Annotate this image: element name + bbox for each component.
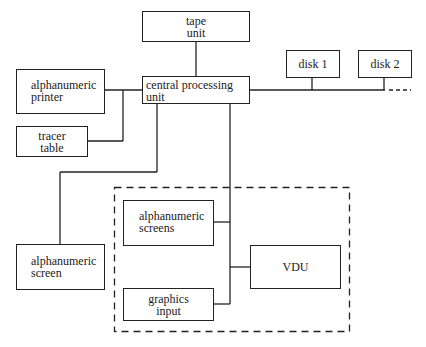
disk-1-box: disk 1 [286, 50, 340, 78]
graphics-input-label: graphics input [148, 293, 189, 317]
alphanumeric-screens-box: alphanumeric screens [123, 200, 214, 246]
cpu-label: central processing unit [146, 79, 233, 103]
tracer-table-label: tracer table [38, 130, 65, 154]
alphanumeric-printer-label: alphanumeric printer [31, 79, 96, 103]
cpu-box: central processing unit [142, 76, 250, 104]
tape-unit-label: tape unit [186, 15, 206, 39]
tracer-table-box: tracer table [16, 126, 88, 157]
disk-2-label: disk 2 [370, 58, 399, 70]
vdu-label: VDU [283, 261, 309, 273]
alphanumeric-screen-box: alphanumeric screen [16, 244, 105, 290]
disk-2-box: disk 2 [358, 50, 412, 78]
vdu-box: VDU [250, 245, 341, 289]
alphanumeric-printer-box: alphanumeric printer [16, 69, 105, 114]
disk-1-label: disk 1 [298, 58, 327, 70]
tape-unit-box: tape unit [142, 11, 250, 42]
alphanumeric-screens-label: alphanumeric screens [139, 210, 204, 234]
computer-system-diagram: tape unit central processing unit alphan… [0, 0, 426, 347]
alphanumeric-screen-label: alphanumeric screen [31, 255, 96, 279]
graphics-input-box: graphics input [123, 288, 214, 321]
